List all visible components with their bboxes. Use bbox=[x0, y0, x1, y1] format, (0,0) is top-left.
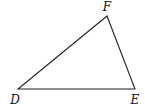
triangle-diagram: D E F bbox=[0, 0, 145, 108]
vertex-label-f: F bbox=[102, 0, 112, 14]
vertex-label-e: E bbox=[130, 93, 140, 107]
vertex-label-d: D bbox=[9, 93, 20, 107]
triangle-def bbox=[18, 16, 135, 89]
